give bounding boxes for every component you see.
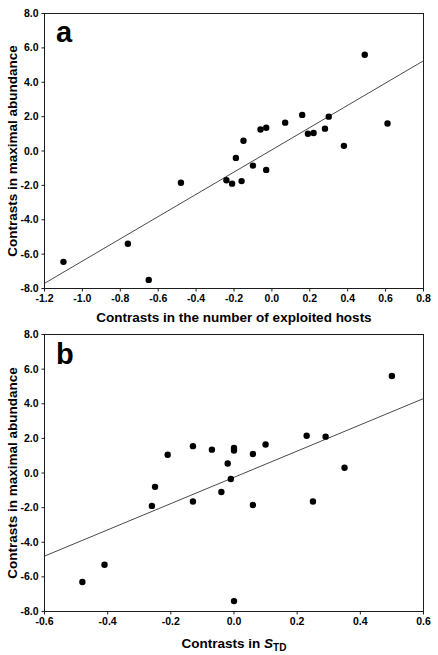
data-point <box>231 598 237 604</box>
data-point <box>60 259 66 265</box>
data-point <box>101 562 107 568</box>
y-axis-title-b: Contrasts in maximal abundance <box>5 367 20 579</box>
data-point <box>231 447 237 453</box>
data-point <box>240 137 246 143</box>
data-point <box>310 498 316 504</box>
data-point <box>341 465 347 471</box>
x-tick-label: -0.4 <box>99 615 117 627</box>
data-point <box>299 112 305 118</box>
x-tick-label: -1.0 <box>73 292 91 304</box>
data-point <box>125 241 131 247</box>
data-point <box>250 502 256 508</box>
data-point <box>149 503 155 509</box>
y-tick-label: 4.0 <box>24 76 39 88</box>
x-axis-title-b-subscript: TD <box>273 642 286 653</box>
data-point <box>250 162 256 168</box>
y-tick-label: 6.0 <box>24 363 39 375</box>
data-point <box>326 113 332 119</box>
regression-line <box>45 399 424 557</box>
y-tick-label: 2.0 <box>24 110 39 122</box>
y-tick-label: 2.0 <box>24 432 39 444</box>
y-tick-label: -8.0 <box>20 282 38 294</box>
data-point <box>257 126 263 132</box>
y-axis-title-a: Contrasts in maximal abundance <box>5 45 20 257</box>
x-axis-title-b-prefix: Contrasts in <box>182 636 265 651</box>
data-point <box>223 177 229 183</box>
data-point <box>79 579 85 585</box>
x-tick-label: 0.6 <box>416 615 431 627</box>
data-point <box>164 452 170 458</box>
data-point <box>305 131 311 137</box>
y-tick-label: 8.0 <box>24 7 39 19</box>
x-axis-title-b-variable: S <box>264 636 273 651</box>
x-tick-label: -0.2 <box>225 292 243 304</box>
data-point <box>322 433 328 439</box>
y-tick-label: -6.0 <box>20 570 38 582</box>
data-point <box>389 373 395 379</box>
y-tick-label: -2.0 <box>20 501 38 513</box>
x-tick-label: 0.2 <box>290 615 305 627</box>
y-tick-label: 8.0 <box>24 328 39 340</box>
data-point <box>190 443 196 449</box>
x-tick-label: 0.0 <box>227 615 242 627</box>
plot-frame <box>45 335 424 612</box>
y-tick-label: -4.0 <box>20 213 38 225</box>
data-point <box>303 433 309 439</box>
x-tick-label: 0.6 <box>378 292 393 304</box>
data-point <box>322 125 328 131</box>
data-point <box>263 125 269 131</box>
regression-line <box>45 61 424 284</box>
y-tick-label: -4.0 <box>20 536 38 548</box>
data-point <box>228 476 234 482</box>
data-point <box>362 52 368 58</box>
y-tick-label: -8.0 <box>20 605 38 617</box>
x-tick-label: 0.4 <box>340 292 355 304</box>
y-tick-label: -2.0 <box>20 179 38 191</box>
data-point <box>152 484 158 490</box>
data-point <box>233 155 239 161</box>
data-point <box>282 119 288 125</box>
data-point <box>190 498 196 504</box>
data-point <box>341 143 347 149</box>
data-point <box>218 489 224 495</box>
y-tick-label: 6.0 <box>24 41 39 53</box>
x-tick-label: 0.4 <box>353 615 368 627</box>
x-tick-label: 0.0 <box>265 292 280 304</box>
data-point <box>263 167 269 173</box>
data-point <box>146 277 152 283</box>
y-tick-label: -6.0 <box>20 248 38 260</box>
x-tick-label: 0.2 <box>302 292 317 304</box>
data-point <box>384 120 390 126</box>
x-tick-label: -0.6 <box>149 292 167 304</box>
x-tick-label: -0.8 <box>111 292 129 304</box>
two-panel-scatter-figure: -1.2-1.0-0.8-0.6-0.4-0.20.00.20.40.60.88… <box>0 0 438 655</box>
data-point <box>250 451 256 457</box>
scatter-plots-canvas: -1.2-1.0-0.8-0.6-0.4-0.20.00.20.40.60.88… <box>0 0 438 655</box>
data-point <box>238 178 244 184</box>
y-tick-label: 0.0 <box>24 467 39 479</box>
panel-label-a: a <box>56 18 72 47</box>
x-tick-label: 0.8 <box>416 292 431 304</box>
x-tick-label: -0.2 <box>162 615 180 627</box>
data-point <box>262 441 268 447</box>
data-point <box>310 130 316 136</box>
y-tick-label: 0.0 <box>24 145 39 157</box>
data-point <box>229 180 235 186</box>
data-point <box>178 180 184 186</box>
data-point <box>224 460 230 466</box>
data-point <box>209 446 215 452</box>
panel-label-b: b <box>56 340 74 369</box>
x-axis-title-a: Contrasts in the number of exploited hos… <box>44 310 424 325</box>
y-tick-label: 4.0 <box>24 397 39 409</box>
x-axis-title-b: Contrasts in STD <box>44 636 424 653</box>
x-tick-label: -0.4 <box>187 292 205 304</box>
